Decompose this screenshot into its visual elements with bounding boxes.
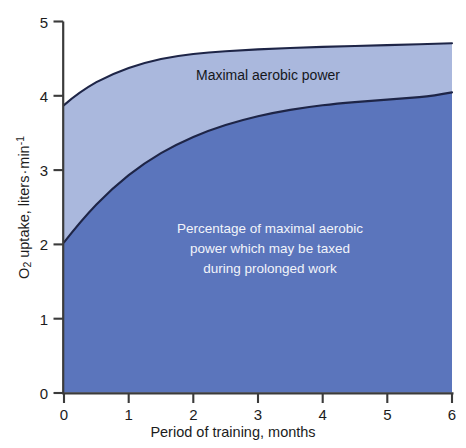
annotation-percentage-line-1: Percentage of maximal aerobic	[142, 219, 398, 239]
x-tick-label-4: 4	[310, 407, 336, 422]
multiplication-dot-icon: ·	[16, 169, 32, 176]
y-axis-title-o: O	[16, 268, 32, 279]
x-tick-label-2: 2	[180, 407, 206, 422]
y-axis-title: O2 uptake, liters·min-1	[15, 97, 34, 317]
x-tick-label-0: 0	[51, 407, 77, 422]
y-tick-label-5: 5	[22, 15, 48, 30]
x-tick-label-3: 3	[245, 407, 271, 422]
annotation-percentage-line-3: during prolonged work	[142, 259, 398, 279]
y-axis-ticks	[54, 22, 64, 394]
annotation-percentage-line-2: power which may be taxed	[142, 239, 398, 259]
x-axis-ticks	[64, 393, 452, 403]
annotation-maximal-aerobic-power: Maximal aerobic power	[196, 67, 340, 83]
y-axis-title-superscript: -1	[15, 136, 26, 145]
x-tick-label-5: 5	[374, 407, 400, 422]
y-axis-title-mid: uptake, liters	[16, 176, 32, 262]
x-tick-label-6: 6	[439, 407, 465, 422]
y-axis-title-unit: min	[16, 145, 32, 168]
chart-figure: 0 1 2 3 4 5 0 1 2 3 4 5 6 Period of trai…	[0, 0, 466, 448]
x-tick-label-1: 1	[116, 407, 142, 422]
y-axis-title-subscript: 2	[22, 262, 33, 268]
x-axis-title: Period of training, months	[0, 424, 466, 440]
y-tick-label-0: 0	[22, 386, 48, 401]
annotation-percentage-taxed: Percentage of maximal aerobic power whic…	[142, 219, 398, 279]
